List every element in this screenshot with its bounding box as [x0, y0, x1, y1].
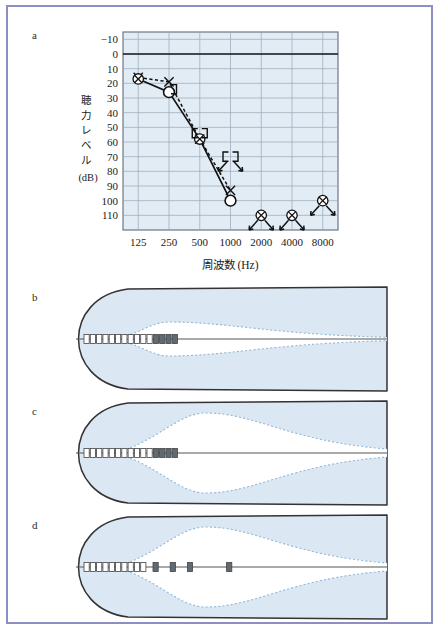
x-tick-label: 1000: [220, 236, 243, 248]
electrode-inactive[interactable]: [90, 335, 95, 344]
electrode-inactive[interactable]: [103, 449, 108, 458]
electrode-active[interactable]: [166, 335, 171, 344]
y-tick-label: 90: [107, 180, 119, 192]
electrode-inactive[interactable]: [128, 335, 133, 344]
electrode-inactive[interactable]: [134, 563, 139, 572]
panel-a-audiogram: a −100102030405060708090100110 125250500…: [8, 7, 439, 279]
audiogram-chart: −100102030405060708090100110 12525050010…: [8, 7, 439, 279]
electrode-inactive[interactable]: [122, 449, 127, 458]
datapoint-unmasked-air-conduction: [164, 87, 175, 98]
panel-b-cochlea: b: [8, 279, 439, 397]
x-tick-label: 250: [161, 236, 178, 248]
electrode-active[interactable]: [153, 335, 158, 344]
electrode-inactive[interactable]: [84, 335, 89, 344]
y-axis-title-char: 力: [81, 109, 91, 121]
electrode-inactive[interactable]: [109, 335, 114, 344]
datapoint-unmasked-air-conduction: [225, 195, 236, 206]
electrode-inactive[interactable]: [103, 335, 108, 344]
electrode-inactive[interactable]: [97, 563, 102, 572]
electrode-inactive[interactable]: [147, 335, 152, 344]
x-tick-label: 4000: [281, 236, 304, 248]
electrode-inactive[interactable]: [141, 449, 146, 458]
electrode-inactive[interactable]: [128, 563, 133, 572]
y-tick-label: 80: [107, 165, 119, 177]
datapoint-masked-air-conduction: [318, 195, 328, 205]
electrode-active[interactable]: [187, 563, 192, 572]
electrode-inactive[interactable]: [122, 335, 127, 344]
electrode-inactive[interactable]: [122, 563, 127, 572]
datapoint-masked-air-conduction: [195, 134, 205, 144]
x-tick-label: 2000: [250, 236, 273, 248]
y-tick-label: 10: [107, 63, 119, 75]
y-tick-label: 30: [107, 92, 119, 104]
electrode-inactive[interactable]: [116, 335, 121, 344]
electrode-active[interactable]: [160, 449, 165, 458]
electrode-inactive[interactable]: [109, 449, 114, 458]
panel-c-cochlea: c: [8, 393, 439, 511]
electrode-array: [84, 449, 177, 458]
electrode-inactive[interactable]: [109, 563, 114, 572]
y-axis-unit: (dB): [78, 172, 98, 184]
figure-frame: a −100102030405060708090100110 125250500…: [6, 5, 433, 624]
y-axis-title: 聴力レベル(dB): [78, 95, 98, 184]
panel-d-cochlea: d: [8, 507, 439, 625]
electrode-active[interactable]: [172, 335, 177, 344]
y-axis-title-char: ル: [81, 155, 91, 166]
y-tick-label: −10: [101, 33, 119, 45]
datapoint-masked-air-conduction: [256, 210, 266, 220]
electrode-inactive[interactable]: [128, 449, 133, 458]
electrode-active[interactable]: [153, 563, 158, 572]
y-axis-title-char: レ: [81, 125, 91, 136]
electrode-inactive[interactable]: [90, 563, 95, 572]
electrode-inactive[interactable]: [103, 563, 108, 572]
x-axis-title: 周波数 (Hz): [202, 258, 259, 272]
electrode-inactive[interactable]: [97, 449, 102, 458]
y-tick-label: 110: [102, 209, 119, 221]
cochlea-diagram-c: [8, 393, 439, 511]
electrode-inactive[interactable]: [116, 563, 121, 572]
x-tick-label: 125: [130, 236, 147, 248]
electrode-inactive[interactable]: [90, 449, 95, 458]
electrode-inactive[interactable]: [97, 335, 102, 344]
datapoint-masked-air-conduction: [133, 74, 143, 84]
electrode-inactive[interactable]: [147, 449, 152, 458]
electrode-active[interactable]: [170, 563, 175, 572]
y-tick-label: 50: [107, 121, 119, 133]
electrode-active[interactable]: [153, 449, 158, 458]
x-axis-tick-labels: 1252505001000200040008000: [130, 236, 334, 248]
y-tick-label: 20: [107, 77, 119, 89]
electrode-inactive[interactable]: [141, 563, 146, 572]
y-tick-label: 0: [113, 48, 119, 60]
electrode-active[interactable]: [227, 563, 232, 572]
y-axis-title-char: 聴: [81, 95, 92, 106]
x-tick-label: 8000: [312, 236, 335, 248]
electrode-inactive[interactable]: [134, 335, 139, 344]
electrode-inactive[interactable]: [134, 449, 139, 458]
electrode-array: [84, 335, 177, 344]
y-tick-label: 70: [107, 151, 119, 163]
y-tick-label: 100: [102, 195, 119, 207]
electrode-active[interactable]: [166, 449, 171, 458]
electrode-inactive[interactable]: [141, 335, 146, 344]
y-tick-label: 40: [107, 107, 119, 119]
y-axis-title-char: ベ: [81, 140, 91, 151]
electrode-inactive[interactable]: [84, 563, 89, 572]
electrode-inactive[interactable]: [84, 449, 89, 458]
cochlea-diagram-b: [8, 279, 439, 397]
y-axis-tick-labels: −100102030405060708090100110: [101, 33, 119, 221]
datapoint-masked-air-conduction: [287, 210, 297, 220]
y-tick-label: 60: [107, 136, 119, 148]
electrode-active[interactable]: [160, 335, 165, 344]
electrode-inactive[interactable]: [116, 449, 121, 458]
electrode-active[interactable]: [172, 449, 177, 458]
x-tick-label: 500: [192, 236, 209, 248]
cochlea-diagram-d: [8, 507, 439, 625]
